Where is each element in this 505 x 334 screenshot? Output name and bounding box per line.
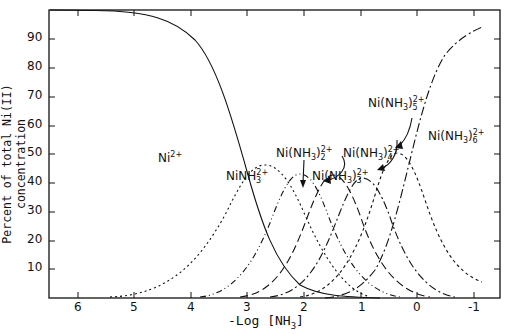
y-tick-10: 10 xyxy=(27,260,42,274)
series-n6 xyxy=(325,27,482,298)
x-tick-neg1: -1 xyxy=(468,300,480,314)
y-tick-70: 70 xyxy=(27,88,42,102)
series-ni xyxy=(50,10,380,298)
y-tick-80: 80 xyxy=(27,59,42,73)
x-tick-4: 4 xyxy=(187,300,195,314)
y-tick-30: 30 xyxy=(27,203,42,217)
label-n4: Ni(NH3)2+4 xyxy=(343,145,393,162)
label-n3: Ni(NH3)2+3 xyxy=(312,168,362,185)
x-tick-0: 0 xyxy=(413,300,421,314)
y-tick-20: 20 xyxy=(27,232,42,246)
y-tick-90: 90 xyxy=(27,30,42,44)
series-n4 xyxy=(270,178,455,297)
label-n6: Ni(NH3)2+6 xyxy=(428,128,478,145)
x-tick-5: 5 xyxy=(130,300,138,314)
chart-plot xyxy=(0,0,505,334)
x-tick-6: 6 xyxy=(74,300,82,314)
label-ninh3: NiNH2+3 xyxy=(226,168,261,185)
y-tick-40: 40 xyxy=(27,174,42,188)
x-tick-3: 3 xyxy=(243,300,251,314)
x-axis-label: -Log [NH3] xyxy=(228,313,304,331)
label-ni: Ni2+ xyxy=(158,150,182,165)
y-ticks xyxy=(49,39,500,269)
x-tick-2: 2 xyxy=(300,300,308,314)
y-axis-label: Percent of total Ni(II) concentration xyxy=(0,54,28,274)
label-n2: Ni(NH3)2+2 xyxy=(276,145,326,162)
y-tick-50: 50 xyxy=(27,145,42,159)
y-tick-60: 60 xyxy=(27,117,42,131)
x-tick-1: 1 xyxy=(358,300,366,314)
label-n5: Ni(NH3)2+5 xyxy=(368,95,418,112)
